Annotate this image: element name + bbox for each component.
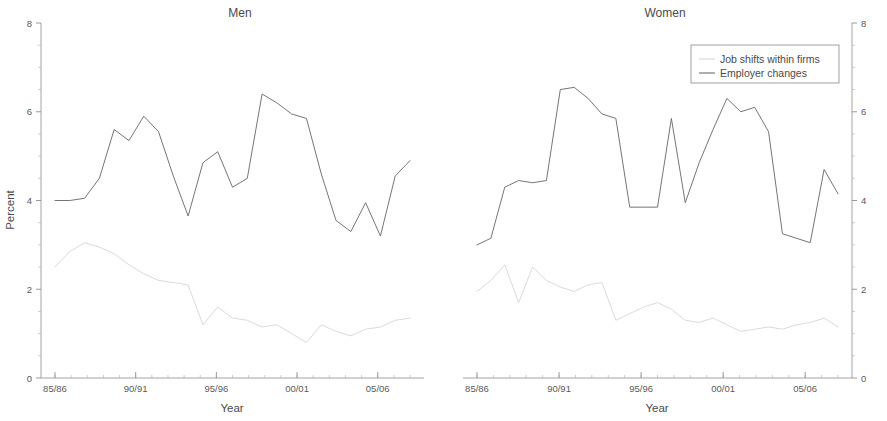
legend: Job shifts within firms Employer changes <box>691 45 839 83</box>
x-tick-label-90-91: 90/91 <box>124 383 148 394</box>
x-tick-label-95-96: 95/96 <box>204 383 228 394</box>
y-tick-label-4: 4 <box>27 195 32 206</box>
series-line-women-employer-changes <box>477 87 838 245</box>
two-panel-line-chart: Men 02468 85/8690/9195/9600/0105/06 Year… <box>0 0 887 421</box>
x-axis-women: 85/8690/9195/9600/0105/06 <box>463 372 852 394</box>
x-tick-label-95-96: 95/96 <box>629 383 653 394</box>
x-axis-women-ticks: 85/8690/9195/9600/0105/06 <box>465 372 838 394</box>
x-tick-label-90-91: 90/91 <box>547 383 571 394</box>
y-tick-label-8: 8 <box>27 18 32 29</box>
y-axis-left: 02468 <box>27 18 41 384</box>
y-tick-label-0: 0 <box>27 373 32 384</box>
panel-title-men: Men <box>228 6 251 20</box>
y-tick-label-6: 6 <box>27 106 32 117</box>
series-line-women-job-shifts-within-firms <box>477 265 838 332</box>
x-tick-label-05-06: 05/06 <box>793 383 817 394</box>
x-tick-label-85-86: 85/86 <box>43 383 67 394</box>
x-axis-label-men: Year <box>220 402 243 414</box>
y-axis-right-ticks: 02468 <box>852 18 866 384</box>
y-tick-label-8: 8 <box>861 18 866 29</box>
y-tick-label-0: 0 <box>861 373 866 384</box>
panel-men: Men 02468 85/8690/9195/9600/0105/06 Year… <box>4 6 424 414</box>
y-tick-label-6: 6 <box>861 106 866 117</box>
x-tick-label-00-01: 00/01 <box>285 383 309 394</box>
y-axis-right: 02468 <box>852 18 866 384</box>
x-tick-label-85-86: 85/86 <box>465 383 489 394</box>
series-line-men-job-shifts-within-firms <box>55 243 410 343</box>
legend-label-job-shifts-within-firms: Job shifts within firms <box>720 53 820 65</box>
y-tick-label-2: 2 <box>861 284 866 295</box>
x-tick-label-05-06: 05/06 <box>366 383 390 394</box>
x-tick-label-00-01: 00/01 <box>711 383 735 394</box>
series-line-men-employer-changes <box>55 94 410 236</box>
x-axis-men-ticks: 85/8690/9195/9600/0105/06 <box>43 372 410 394</box>
x-axis-label-women: Year <box>645 402 668 414</box>
legend-label-employer-changes: Employer changes <box>720 67 807 79</box>
panel-title-women: Women <box>644 6 685 20</box>
x-axis-men: 85/8690/9195/9600/0105/06 <box>41 372 424 394</box>
y-tick-label-4: 4 <box>861 195 866 206</box>
y-tick-label-2: 2 <box>27 284 32 295</box>
y-axis-label-percent: Percent <box>4 189 16 229</box>
figure-container: Men 02468 85/8690/9195/9600/0105/06 Year… <box>0 0 887 421</box>
y-axis-left-ticks: 02468 <box>27 18 41 384</box>
